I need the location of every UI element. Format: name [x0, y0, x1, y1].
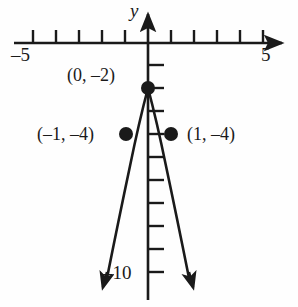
point-label-vertex: (0, –2)	[67, 66, 115, 84]
y-axis-label-neg10: –10	[103, 263, 132, 282]
x-axis-label-neg5: –5	[11, 45, 30, 64]
x-axis-label-pos5: 5	[261, 45, 271, 64]
point-label-left: (–1, –4)	[37, 125, 94, 143]
y-axis-label: y	[130, 1, 138, 20]
data-point-right[interactable]	[164, 127, 178, 141]
curve-arrow-right	[189, 272, 193, 287]
graph-canvas	[0, 0, 298, 307]
parabola-graph-figure: –5 5 y –10 (0, –2) (–1, –4) (1, –4)	[0, 0, 298, 307]
data-point-vertex[interactable]	[141, 81, 155, 95]
point-label-right: (1, –4)	[187, 125, 235, 143]
data-point-left[interactable]	[119, 127, 133, 141]
